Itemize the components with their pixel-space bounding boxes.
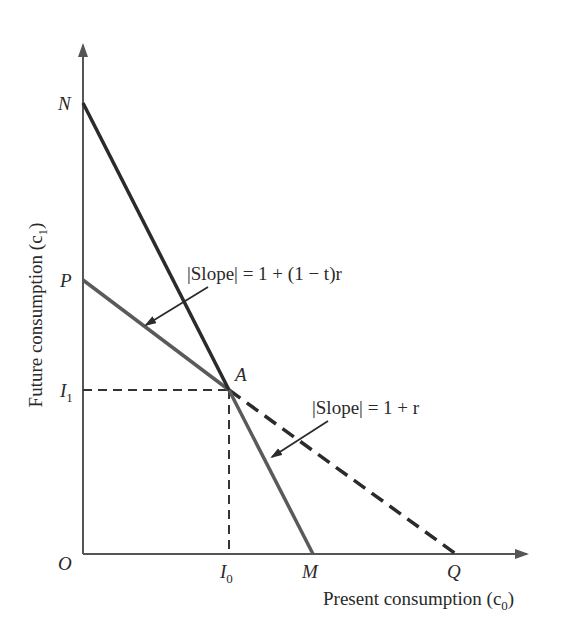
label-i1: I1	[59, 380, 73, 405]
y-axis-title-main: Future consumption (c	[25, 235, 47, 407]
x-axis-title: Present consumption (c0)	[323, 588, 514, 613]
annotation-slope-pre-tax: |Slope| = 1 + r	[312, 397, 420, 418]
pointer-arrow-pre-tax	[272, 421, 328, 457]
label-n: N	[57, 93, 72, 114]
annotation-slope-after-tax: |Slope| = 1 + (1 − t)r	[187, 263, 342, 285]
pointer-arrow-after-tax	[146, 287, 208, 325]
y-axis-title-close: )	[25, 223, 47, 229]
label-i0: I0	[219, 561, 233, 586]
x-axis-title-main: Present consumption (c	[323, 588, 501, 610]
label-origin: O	[58, 553, 72, 574]
x-axis-title-close: )	[508, 588, 514, 610]
y-axis-title: Future consumption (c1)	[25, 223, 50, 408]
label-q: Q	[447, 561, 461, 582]
line-p-to-a	[83, 280, 229, 390]
line-n-to-a	[83, 103, 229, 390]
label-a: A	[233, 364, 247, 385]
label-i0-sub: 0	[226, 571, 233, 586]
label-m: M	[301, 561, 319, 582]
label-i1-sub: 1	[66, 390, 73, 405]
budget-constraint-diagram: N P I1 A O I0 M Q |Slope| = 1 + (1 − t)r…	[0, 0, 561, 633]
line-a-to-m	[229, 390, 313, 554]
label-p: P	[59, 270, 72, 291]
